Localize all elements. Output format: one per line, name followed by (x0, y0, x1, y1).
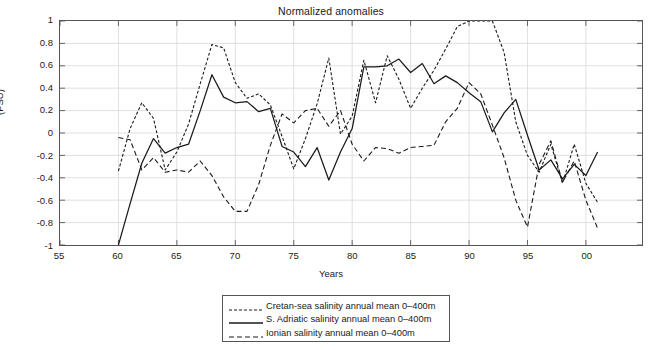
x-tick-label: 55 (44, 250, 74, 261)
legend-label: Ionian salinity annual mean 0–400m (266, 328, 415, 338)
plot-area (59, 20, 643, 246)
legend-item[interactable]: Ionian salinity annual mean 0–400m (228, 326, 445, 340)
y-axis-label: (PSU) (0, 89, 5, 115)
x-tick-label: 00 (572, 250, 602, 261)
series-canvas (60, 21, 642, 245)
x-axis-label: Years (0, 268, 662, 279)
legend: Cretan-sea salinity annual mean 0–400mS.… (222, 295, 450, 342)
y-tick-label: -0.6 (27, 196, 53, 206)
chart-title: Normalized anomalies (0, 5, 662, 17)
x-tick-label: 85 (396, 250, 426, 261)
y-tick-label: 0.8 (27, 38, 53, 48)
y-tick-label: -0.8 (27, 218, 53, 228)
x-tick-label: 65 (161, 250, 191, 261)
series-line-0 (118, 21, 597, 202)
legend-label: S. Adriatic salinity annual mean 0–400m (266, 314, 431, 324)
y-tick-label: 1 (27, 15, 53, 25)
y-tick-label: 0 (27, 128, 53, 138)
legend-item[interactable]: S. Adriatic salinity annual mean 0–400m (228, 313, 445, 327)
x-tick-label: 75 (279, 250, 309, 261)
y-tick-label: -0.4 (27, 173, 53, 183)
chart-figure: Normalized anomalies (PSU) -1-0.8-0.6-0.… (0, 0, 662, 350)
x-tick-label: 60 (103, 250, 133, 261)
legend-item[interactable]: Cretan-sea salinity annual mean 0–400m (228, 299, 445, 313)
y-tick-label: 0.2 (27, 105, 53, 115)
x-tick-label: 90 (454, 250, 484, 261)
legend-line-sample (228, 314, 264, 324)
y-tick-label: 0.4 (27, 83, 53, 93)
legend-line-sample (228, 328, 264, 338)
x-tick-label: 70 (220, 250, 250, 261)
y-tick-label: -0.2 (27, 151, 53, 161)
series-line-1 (118, 59, 597, 245)
x-tick-label: 95 (513, 250, 543, 261)
legend-line-sample (228, 301, 264, 311)
y-tick-label: 0.6 (27, 60, 53, 70)
legend-label: Cretan-sea salinity annual mean 0–400m (266, 301, 436, 311)
x-tick-label: 80 (337, 250, 367, 261)
